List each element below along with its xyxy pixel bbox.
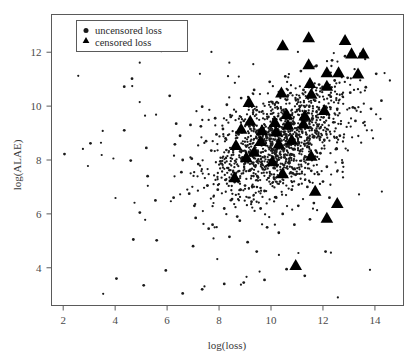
data-point-uncensored bbox=[311, 119, 313, 121]
data-point-uncensored bbox=[294, 105, 296, 107]
data-point-uncensored bbox=[293, 158, 295, 160]
data-point-uncensored bbox=[304, 91, 306, 93]
data-point-uncensored bbox=[263, 156, 265, 158]
data-point-uncensored bbox=[245, 170, 247, 172]
data-point-uncensored bbox=[221, 170, 223, 172]
data-point-uncensored bbox=[357, 135, 359, 137]
y-axis-ticks: 4681012 bbox=[31, 46, 52, 274]
data-point-uncensored bbox=[304, 167, 306, 169]
data-point-uncensored bbox=[308, 109, 310, 111]
data-point-uncensored bbox=[269, 106, 271, 108]
data-point-uncensored bbox=[230, 189, 232, 191]
data-point-uncensored bbox=[292, 123, 294, 125]
data-point-uncensored bbox=[247, 196, 249, 198]
data-point-uncensored bbox=[189, 156, 191, 158]
data-point-uncensored bbox=[266, 202, 268, 204]
data-point-uncensored bbox=[330, 65, 332, 67]
data-point-uncensored bbox=[214, 124, 216, 126]
data-point-uncensored bbox=[213, 195, 215, 197]
data-point-uncensored bbox=[353, 89, 355, 91]
data-point-uncensored bbox=[204, 177, 206, 179]
data-point-uncensored bbox=[328, 196, 331, 199]
data-point-uncensored bbox=[194, 217, 197, 220]
data-point-uncensored bbox=[252, 175, 254, 177]
data-point-uncensored bbox=[249, 128, 251, 130]
data-point-uncensored bbox=[370, 107, 373, 110]
data-point-uncensored bbox=[196, 175, 198, 177]
data-point-uncensored bbox=[279, 150, 281, 152]
data-point-uncensored bbox=[297, 149, 299, 151]
data-point-uncensored bbox=[263, 160, 265, 162]
data-point-uncensored bbox=[338, 112, 340, 114]
data-point-uncensored bbox=[323, 147, 325, 149]
data-point-uncensored bbox=[319, 136, 321, 138]
data-point-uncensored bbox=[274, 167, 276, 169]
data-point-uncensored bbox=[203, 187, 205, 189]
data-point-uncensored bbox=[250, 177, 252, 179]
data-point-uncensored bbox=[298, 168, 300, 170]
data-point-uncensored bbox=[312, 182, 314, 184]
data-point-uncensored bbox=[372, 137, 374, 139]
data-point-uncensored bbox=[301, 132, 303, 134]
data-point-uncensored bbox=[334, 114, 336, 116]
data-point-uncensored bbox=[292, 120, 294, 122]
data-point-uncensored bbox=[131, 85, 133, 87]
data-point-uncensored bbox=[309, 138, 311, 140]
data-point-uncensored bbox=[323, 140, 325, 142]
data-point-uncensored bbox=[288, 187, 290, 189]
data-point-uncensored bbox=[285, 135, 287, 137]
data-point-uncensored bbox=[281, 191, 283, 193]
data-point-uncensored bbox=[279, 180, 282, 183]
legend: uncensored loss censored loss bbox=[77, 21, 188, 52]
data-point-uncensored bbox=[300, 178, 302, 180]
data-point-uncensored bbox=[315, 115, 317, 117]
data-point-uncensored bbox=[203, 142, 205, 144]
data-point-uncensored bbox=[283, 166, 285, 168]
data-point-uncensored bbox=[284, 75, 287, 78]
data-point-uncensored bbox=[255, 114, 257, 116]
data-point-uncensored bbox=[173, 155, 175, 157]
data-point-uncensored bbox=[231, 154, 233, 156]
series-uncensored-loss bbox=[63, 46, 391, 299]
data-point-uncensored bbox=[303, 158, 305, 160]
data-point-uncensored bbox=[275, 155, 277, 157]
data-point-uncensored bbox=[289, 172, 291, 174]
data-point-uncensored bbox=[300, 153, 302, 155]
data-point-uncensored bbox=[276, 183, 278, 185]
data-point-uncensored bbox=[375, 72, 378, 75]
data-point-uncensored bbox=[334, 90, 336, 92]
x-tick-label: 14 bbox=[369, 314, 381, 326]
data-point-uncensored bbox=[216, 188, 219, 191]
data-point-uncensored bbox=[213, 226, 215, 228]
data-point-uncensored bbox=[330, 96, 332, 98]
data-point-uncensored bbox=[234, 206, 236, 208]
data-point-uncensored bbox=[315, 151, 317, 153]
data-point-uncensored bbox=[321, 170, 323, 172]
data-point-uncensored bbox=[389, 79, 391, 81]
data-point-uncensored bbox=[253, 186, 255, 188]
data-point-uncensored bbox=[202, 223, 204, 225]
data-point-uncensored bbox=[328, 140, 330, 142]
data-point-uncensored bbox=[280, 130, 282, 132]
data-point-uncensored bbox=[253, 164, 255, 166]
data-point-uncensored bbox=[299, 105, 301, 107]
data-point-uncensored bbox=[337, 102, 339, 104]
data-point-uncensored bbox=[100, 142, 102, 144]
data-point-uncensored bbox=[132, 238, 135, 241]
data-point-uncensored bbox=[245, 196, 247, 198]
data-point-uncensored bbox=[286, 81, 288, 83]
data-point-uncensored bbox=[313, 164, 315, 166]
data-point-uncensored bbox=[330, 252, 332, 254]
data-point-uncensored bbox=[354, 107, 356, 109]
data-point-uncensored bbox=[348, 107, 350, 109]
data-point-uncensored bbox=[321, 147, 323, 149]
data-point-uncensored bbox=[263, 279, 266, 282]
data-point-uncensored bbox=[245, 178, 247, 180]
data-point-uncensored bbox=[267, 127, 269, 129]
data-point-uncensored bbox=[228, 169, 230, 171]
data-point-uncensored bbox=[199, 73, 201, 75]
data-point-uncensored bbox=[244, 149, 246, 151]
data-point-uncensored bbox=[194, 203, 196, 205]
data-point-uncensored bbox=[123, 129, 126, 132]
data-point-censored bbox=[243, 96, 256, 107]
